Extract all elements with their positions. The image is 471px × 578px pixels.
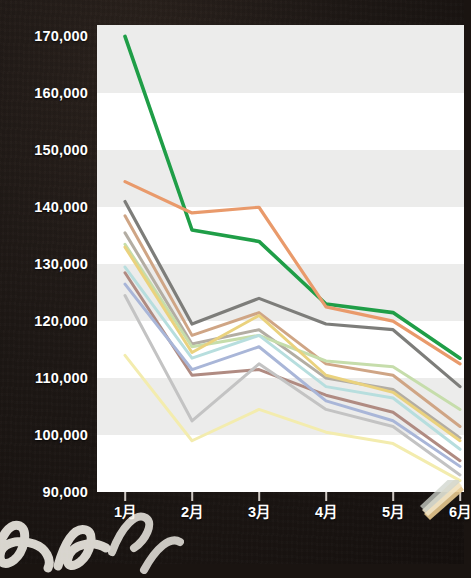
y-axis-tick-label: 100,000 (34, 427, 88, 443)
y-axis-tick-label: 140,000 (34, 199, 88, 215)
chart-line-series-darkgray (125, 202, 460, 387)
y-axis-tick-label: 160,000 (34, 85, 88, 101)
y-axis-tick-label: 150,000 (34, 142, 88, 158)
y-axis-tick-label: 130,000 (34, 256, 88, 272)
y-axis-tick-label: 90,000 (42, 484, 88, 500)
line-chart-plot-area (97, 25, 464, 492)
y-axis-tick-label: 110,000 (35, 370, 88, 386)
y-axis-tick-label: 170,000 (34, 28, 88, 44)
y-axis-tick-label: 120,000 (34, 313, 88, 329)
y-axis-labels: 170,000160,000150,000140,000130,000120,0… (0, 0, 95, 520)
chart-series-svg (97, 25, 464, 492)
